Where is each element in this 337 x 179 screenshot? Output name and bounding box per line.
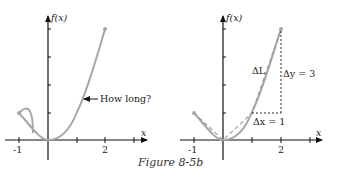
right-x-tick-label-2: 2 — [278, 144, 284, 155]
left-x-axis-label: x — [141, 127, 147, 138]
left-graph: How long? f(x) x -1 2 — [5, 12, 151, 160]
how-long-label: How long? — [100, 93, 151, 104]
right-x-tick-label-neg1: -1 — [188, 144, 197, 155]
delta-y-label: Δy = 3 — [283, 68, 315, 79]
delta-x-label: Δx = 1 — [253, 116, 285, 127]
left-y-axis-label: f(x) — [50, 12, 68, 23]
right-x-axis-label: x — [316, 127, 322, 138]
right-y-axis-label: f(x) — [225, 12, 243, 23]
left-parabola-curve — [19, 29, 105, 140]
left-x-tick-label-2: 2 — [102, 144, 108, 155]
left-endpoint-left — [17, 111, 21, 115]
left-endpoint-right — [103, 27, 107, 31]
figure-caption: Figure 8-5b — [138, 156, 203, 169]
left-x-tick-label-neg1: -1 — [13, 144, 22, 155]
delta-L-label: ΔL — [252, 65, 266, 76]
figure-canvas: How long? f(x) x -1 2 f(x) — [0, 0, 337, 179]
right-graph: f(x) x -1 2 ΔL Δy = 3 Δx = 1 — [180, 12, 322, 160]
